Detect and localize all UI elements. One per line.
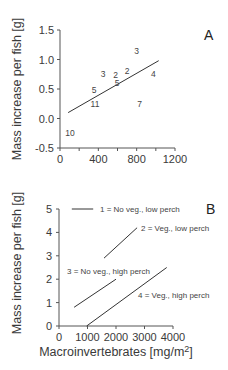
y-tick-label: 4 (46, 226, 52, 238)
panel-b-x-ticks: 01000200030004000 (56, 326, 185, 343)
x-tick-label: 0 (57, 153, 63, 165)
y-tick-label: 5 (46, 203, 52, 215)
y-tick-label: 0 (46, 320, 52, 332)
legend-4: 4 = Veg., high perch (138, 291, 209, 300)
y-tick-label: 1.5 (39, 24, 54, 36)
x-tick-label: 400 (89, 153, 107, 165)
figure: -0.50.00.51.01.5 04008001200 33225451171… (0, 0, 228, 370)
x-tick-label: 1000 (75, 331, 99, 343)
data-point-label: 4 (151, 69, 156, 79)
legend-1: 1 = No veg., low perch (100, 205, 180, 214)
panel-a-y-ticks: -0.50.00.51.01.5 (35, 24, 60, 154)
y-tick-label: 1.0 (39, 54, 54, 66)
y-tick-label: 2 (46, 273, 52, 285)
series-line-2 (104, 228, 137, 258)
y-tick-label: 1 (46, 297, 52, 309)
x-tick-label: 800 (127, 153, 145, 165)
panel-b-letter: B (206, 201, 215, 217)
x-tick-label: 3000 (132, 331, 156, 343)
panel-b-chart: 012345 01000200030004000 1 = No veg., lo… (10, 192, 215, 359)
data-point-label: 3 (101, 69, 106, 79)
data-point-label: 7 (137, 99, 142, 109)
x-tick-label: 1200 (163, 153, 187, 165)
panel-a-points: 332254511710 (65, 46, 156, 139)
series-line-3 (74, 279, 116, 307)
data-point-label: 11 (91, 99, 100, 109)
panel-b-y-label: Mass increase per fish [g] (10, 192, 24, 334)
x-tick-label: 0 (56, 331, 62, 343)
data-point-label: 10 (65, 128, 75, 138)
x-tick-label: 2000 (104, 331, 128, 343)
y-tick-label: -0.5 (35, 142, 54, 154)
y-tick-label: 3 (46, 250, 52, 262)
data-point-label: 3 (134, 46, 139, 56)
legend-2: 2 = Veg., low perch (141, 224, 209, 233)
panel-a-letter: A (204, 27, 214, 43)
data-point-label: 5 (92, 85, 97, 95)
panel-b-y-ticks: 012345 (46, 203, 59, 332)
panel-a-x-ticks: 04008001200 (57, 148, 187, 165)
data-point-label: 2 (125, 66, 130, 76)
y-tick-label: 0.0 (39, 113, 54, 125)
panel-a-chart: -0.50.00.51.01.5 04008001200 33225451171… (10, 18, 214, 165)
panel-a-y-label: Mass increase per fish [g] (10, 18, 24, 160)
panel-b-x-label: Macroinvertebrates [mg/m2] (39, 344, 193, 359)
panel-a-regression-line (68, 61, 159, 113)
y-tick-label: 0.5 (39, 83, 54, 95)
x-tick-label: 4000 (161, 331, 185, 343)
data-point-label: 5 (115, 78, 120, 88)
legend-3: 3 = No veg., high perch (67, 267, 150, 276)
